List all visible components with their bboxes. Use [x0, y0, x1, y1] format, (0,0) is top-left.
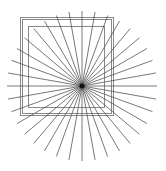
starburst-diagram [0, 0, 166, 171]
center-point [80, 84, 85, 89]
